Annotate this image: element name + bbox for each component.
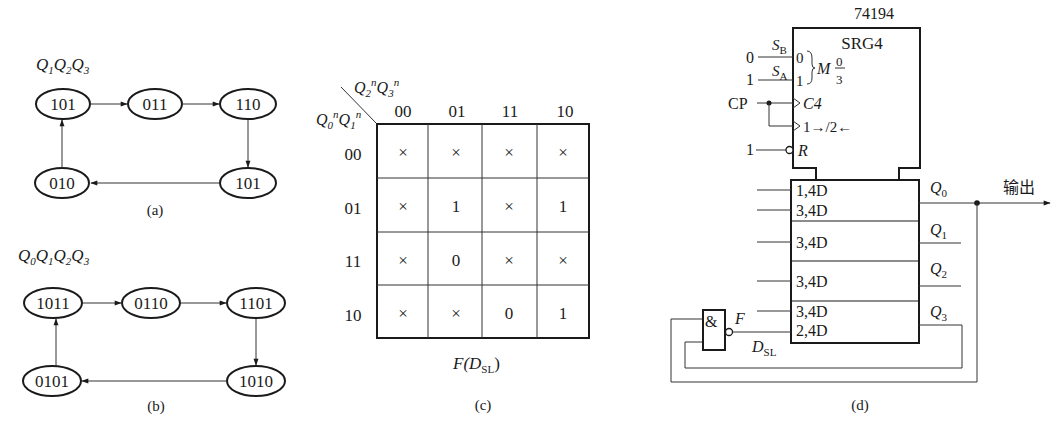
output-q1: Q1 [930,221,947,241]
mode-label: M [816,60,832,77]
shift-register-circuit: 74194 SRG4 SB 0 0 SA 1 1 M 0 3 CP C4 1→/… [671,5,1050,414]
function-label: F(DSL) [452,354,500,375]
caption-c: (c) [475,397,492,414]
svg-text:1011: 1011 [36,294,69,313]
gate-output-label: F [734,310,745,327]
kmap-cell: 0 [452,251,461,270]
input-label: 3,4D [796,303,828,320]
reset-value: 1 [746,141,754,158]
sa-value: 1 [746,71,754,88]
kmap-cell: 1 [559,197,568,216]
state-node: 1011 [24,288,82,318]
header-a: Q1Q2Q3 [36,55,90,76]
row-header: 10 [345,306,362,325]
caption-d: (d) [851,397,869,414]
dsl-label: DSL [751,338,777,358]
kmap-cell: × [451,143,461,162]
svg-text:010: 010 [49,174,75,193]
mode-input-1: 1 [796,73,804,89]
input-label: 3,4D [796,202,828,219]
inversion-bubble [726,329,733,336]
state-node: 0101 [23,366,81,396]
kmap-cell: × [504,251,514,270]
reset-label: R [797,142,808,159]
header-b: Q0Q1Q2Q3 [18,246,90,267]
svg-text:101: 101 [235,174,261,193]
svg-text:1101: 1101 [239,294,272,313]
kmap-cell: × [558,143,568,162]
clock-input-label: CP [728,95,748,112]
column-variable-label: Q2nQ3n [354,76,400,99]
kmap-cell: × [398,143,408,162]
input-label: 3,4D [796,273,828,290]
output-label: 输出 [1003,179,1035,196]
chip-name: 74194 [854,5,894,22]
shift-label: 1→/2← [803,119,852,135]
state-node: 101 [36,89,90,119]
state-node: 110 [220,89,276,119]
kmap-cell: × [398,304,408,323]
row-variable-label: Q0nQ1n [316,108,362,131]
kmap-cell: × [504,143,514,162]
figure-canvas: Q1Q2Q3 101 011 110 101 010 (a) Q0Q1Q2Q3 [0,0,1061,437]
state-node: 1101 [227,288,285,318]
svg-text:0101: 0101 [35,372,69,391]
output-q0: Q0 [930,179,948,199]
svg-text:101: 101 [50,95,76,114]
input-label: 3,4D [796,234,828,251]
karnaugh-map: Q2nQ3n Q0nQ1n 00 01 11 10 00 01 11 10 × … [316,76,589,414]
col-header: 10 [557,102,574,121]
input-label: 2,4D [796,322,828,339]
kmap-cell: × [504,197,514,216]
svg-text:1010: 1010 [239,372,273,391]
kmap-cell: × [398,197,408,216]
state-node: 101 [220,168,276,198]
state-node: 0110 [122,288,180,318]
row-header: 00 [345,145,362,164]
kmap-cell: 1 [452,197,461,216]
inversion-bubble [786,147,793,154]
mode-input-0: 0 [796,50,804,66]
state-node: 011 [128,89,182,119]
mode-fraction-top: 0 [836,54,843,69]
state-diagram-b: Q0Q1Q2Q3 1011 0110 1101 1010 0101 (b) [18,246,285,415]
state-node: 1010 [227,366,285,396]
kmap-cell: × [451,304,461,323]
row-header: 01 [345,199,362,218]
clock-label: C4 [803,95,822,112]
state-node: 010 [35,168,89,198]
col-header: 11 [502,102,518,121]
output-q3: Q3 [930,303,948,323]
kmap-cell: 1 [559,304,568,323]
caption-a: (a) [147,202,164,219]
kmap-grid [377,124,589,338]
sb-label: SB [772,37,787,56]
sb-value: 0 [746,49,754,66]
state-diagram-a: Q1Q2Q3 101 011 110 101 010 (a) [35,55,276,219]
col-header: 01 [449,102,466,121]
kmap-cell: × [558,251,568,270]
mode-fraction-bottom: 3 [836,72,843,87]
block-name: SRG4 [841,34,883,53]
svg-text:011: 011 [143,95,168,114]
nand-gate-label: & [705,313,718,330]
kmap-cell: 0 [505,304,514,323]
output-q2: Q2 [930,260,947,280]
sa-label: SA [772,63,788,82]
col-header: 00 [395,102,412,121]
caption-b: (b) [147,398,165,415]
row-header: 11 [345,252,361,271]
kmap-cell: × [398,251,408,270]
input-label: 1,4D [796,182,828,199]
svg-text:110: 110 [236,95,261,114]
svg-text:0110: 0110 [134,294,167,313]
